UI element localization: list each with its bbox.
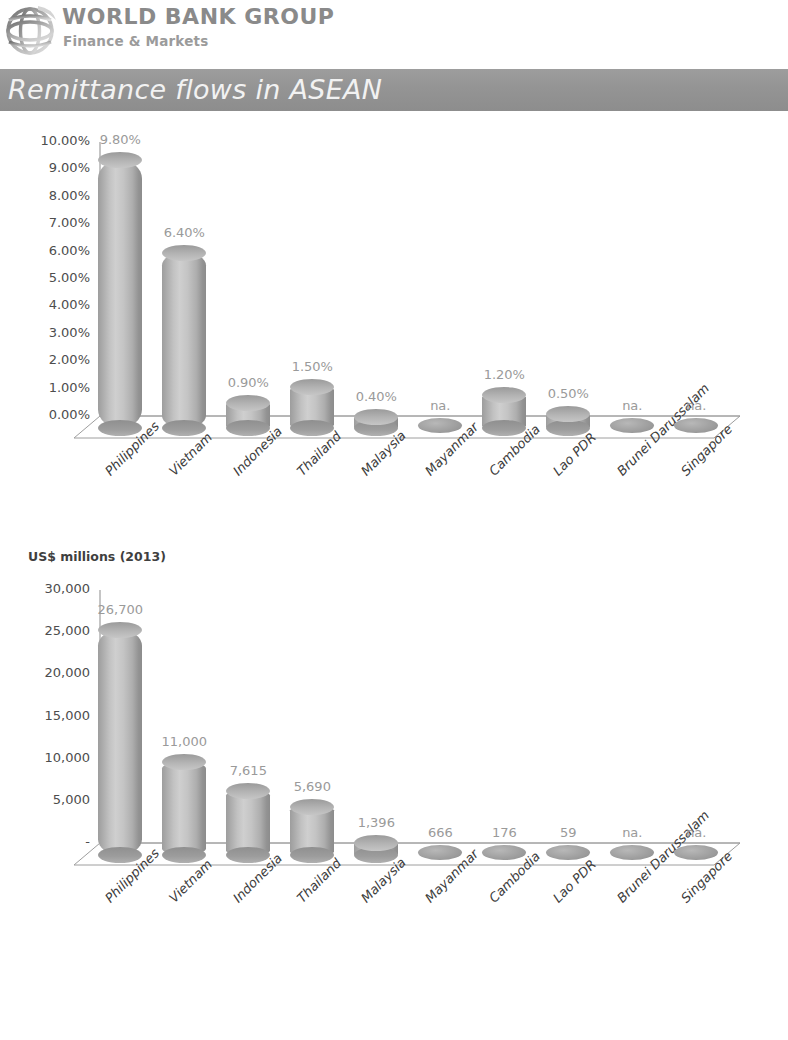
bar-10-value-label: na. xyxy=(648,825,744,840)
bar-6-value-label: na. xyxy=(392,398,488,413)
brand-title: WORLD BANK GROUP xyxy=(62,4,334,29)
y-axis-tick: 7.00% xyxy=(0,215,90,230)
bar-3-value-label: 0.90% xyxy=(200,375,296,390)
chart2-subtitle: US$ millions (2013) xyxy=(28,549,166,564)
y-axis-tick: 10,000 xyxy=(0,750,90,765)
y-axis-tick: 25,000 xyxy=(0,623,90,638)
bar-1-cap xyxy=(98,622,142,638)
y-axis-tick: 4.00% xyxy=(0,297,90,312)
y-axis-tick: 8.00% xyxy=(0,188,90,203)
bar-1-value-label: 26,700 xyxy=(72,602,168,617)
y-axis-tick: 1.00% xyxy=(0,380,90,395)
bar-1 xyxy=(98,160,142,429)
world-bank-globe-icon xyxy=(2,2,60,60)
brand-header: WORLD BANK GROUP Finance & Markets xyxy=(0,0,788,62)
bar-2-value-label: 11,000 xyxy=(136,734,232,749)
y-axis-tick: 20,000 xyxy=(0,665,90,680)
bar-2-cap xyxy=(162,245,206,261)
bar-2 xyxy=(162,253,206,428)
bar-3-value-label: 7,615 xyxy=(200,763,296,778)
y-axis-tick: 6.00% xyxy=(0,243,90,258)
bar-2-value-label: 6.40% xyxy=(136,225,232,240)
chart-remittance-percent-gdp: 0.00%1.00%2.00%3.00%4.00%5.00%6.00%7.00%… xyxy=(0,120,788,540)
y-axis-tick: 9.00% xyxy=(0,160,90,175)
y-axis-tick: 0.00% xyxy=(0,407,90,422)
y-axis-tick: 5,000 xyxy=(0,792,90,807)
bar-1-cap xyxy=(98,152,142,168)
brand-subtitle: Finance & Markets xyxy=(63,33,208,49)
bar-3 xyxy=(226,791,270,855)
page-title-band: Remittance flows in ASEAN xyxy=(0,69,788,111)
bar-4-value-label: 1.50% xyxy=(264,359,360,374)
bar-10-value-label: na. xyxy=(648,398,744,413)
y-axis-tick: 3.00% xyxy=(0,325,90,340)
y-axis-tick: - xyxy=(0,834,90,849)
page-title: Remittance flows in ASEAN xyxy=(8,74,382,105)
bar-1-value-label: 9.80% xyxy=(72,132,168,147)
y-axis-tick: 30,000 xyxy=(0,581,90,596)
y-axis-tick: 2.00% xyxy=(0,352,90,367)
y-axis-tick: 5.00% xyxy=(0,270,90,285)
chart-remittance-usd-millions: -5,00010,00015,00020,00025,00030,00026,7… xyxy=(0,565,788,1035)
bar-4-value-label: 5,690 xyxy=(264,779,360,794)
bar-7-value-label: 1.20% xyxy=(456,367,552,382)
y-axis-tick: 15,000 xyxy=(0,708,90,723)
